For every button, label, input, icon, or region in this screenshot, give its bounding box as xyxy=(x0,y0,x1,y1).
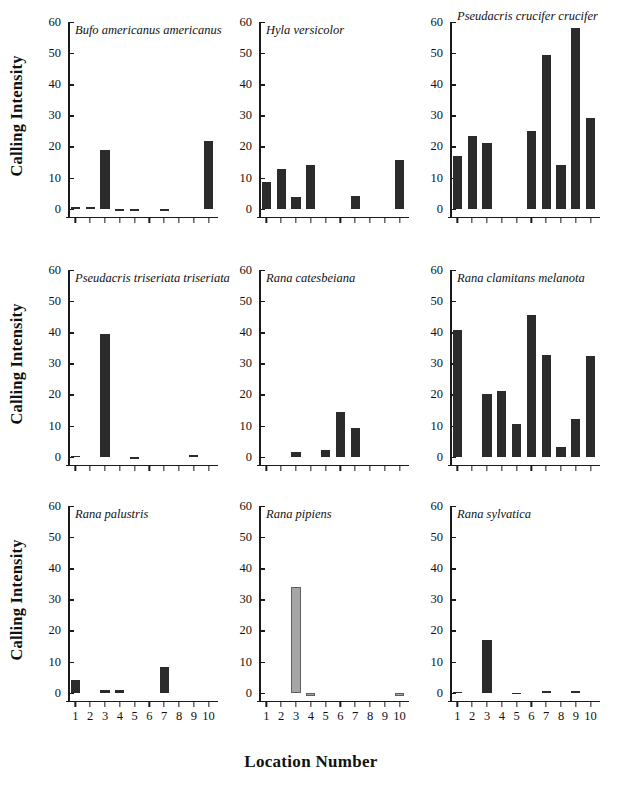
bar xyxy=(482,394,491,456)
y-axis-line xyxy=(450,506,452,702)
y-axis-tick xyxy=(70,506,75,507)
y-axis-tick-label: 20 xyxy=(49,387,62,402)
chart-panel: Pseudacris triseriata triseriata01020304… xyxy=(34,256,220,492)
x-axis-tick xyxy=(134,466,135,471)
y-axis-tick-label: 60 xyxy=(431,15,444,30)
y-axis-tick xyxy=(70,209,75,210)
y-axis-line xyxy=(259,22,261,218)
y-axis-tick xyxy=(261,270,266,271)
bar xyxy=(482,143,491,208)
y-axis-tick xyxy=(70,22,75,23)
y-axis-tick-label: 0 xyxy=(246,685,252,700)
x-axis-tick-label: 10 xyxy=(584,709,597,724)
x-axis-tick xyxy=(208,466,209,471)
x-axis-tick xyxy=(369,702,370,707)
x-axis-title: Location Number xyxy=(0,752,622,772)
chart-panel: Rana palustris010203040506012345678910 xyxy=(34,492,220,728)
x-axis-tick xyxy=(134,218,135,223)
y-axis-tick xyxy=(452,630,457,631)
bar xyxy=(130,457,139,459)
bar xyxy=(115,209,124,211)
x-axis-tick xyxy=(560,702,561,707)
y-axis-tick xyxy=(261,537,266,538)
x-axis-tick xyxy=(457,466,458,471)
y-axis-tick xyxy=(261,506,266,507)
y-axis-tick xyxy=(452,599,457,600)
y-axis-tick xyxy=(261,22,266,23)
y-axis-title: Calling Intensity xyxy=(2,492,32,708)
x-axis-tick-label: 6 xyxy=(146,709,152,724)
x-axis-tick xyxy=(399,702,400,707)
bar xyxy=(586,118,595,208)
bar xyxy=(204,141,213,209)
x-axis-tick-label: 10 xyxy=(393,709,406,724)
x-axis-tick xyxy=(384,466,385,471)
x-axis-tick xyxy=(310,218,311,223)
y-axis-tick-label: 60 xyxy=(240,499,253,514)
y-axis-tick-label: 40 xyxy=(49,77,62,92)
y-axis-tick-label: 40 xyxy=(431,561,444,576)
bar xyxy=(291,587,300,692)
bar xyxy=(542,355,551,457)
y-axis-tick-label: 40 xyxy=(431,325,444,340)
bar xyxy=(336,412,345,456)
x-axis-tick xyxy=(193,218,194,223)
x-axis-tick xyxy=(575,702,576,707)
x-axis-tick-label: 3 xyxy=(484,709,490,724)
x-axis-tick xyxy=(149,466,150,471)
y-axis-tick-label: 30 xyxy=(431,592,444,607)
x-axis-tick xyxy=(75,466,76,471)
x-axis-tick-label: 3 xyxy=(293,709,299,724)
y-axis-line xyxy=(259,506,261,702)
x-axis-tick xyxy=(104,466,105,471)
bar xyxy=(277,169,286,209)
x-axis-tick xyxy=(369,218,370,223)
x-axis-tick xyxy=(486,466,487,471)
x-axis-tick-label: 7 xyxy=(161,709,167,724)
plot-area: 0102030405060 xyxy=(450,22,598,218)
x-axis-tick-label: 5 xyxy=(513,709,519,724)
y-axis-tick-label: 30 xyxy=(49,356,62,371)
bar xyxy=(571,691,580,693)
x-axis-tick xyxy=(119,466,120,471)
y-axis-title-text: Calling Intensity xyxy=(7,539,27,660)
y-axis-tick xyxy=(452,84,457,85)
y-axis-tick-label: 60 xyxy=(431,499,444,514)
x-axis-tick xyxy=(178,702,179,707)
plot-area: 0102030405060 xyxy=(68,270,216,466)
y-axis-tick xyxy=(261,394,266,395)
y-axis-tick xyxy=(70,332,75,333)
y-axis-tick-label: 40 xyxy=(240,561,253,576)
y-axis-tick-label: 50 xyxy=(49,46,62,61)
plot-area: 010203040506012345678910 xyxy=(68,506,216,702)
bar xyxy=(512,693,521,694)
x-axis-tick-label: 9 xyxy=(573,709,579,724)
x-axis-tick-label: 6 xyxy=(528,709,534,724)
y-axis-tick xyxy=(452,568,457,569)
y-axis-tick-label: 30 xyxy=(49,592,62,607)
y-axis-title: Calling Intensity xyxy=(2,256,32,472)
plot-area: 0102030405060 xyxy=(259,270,407,466)
bar xyxy=(497,391,506,456)
x-axis-tick xyxy=(369,466,370,471)
y-axis-line xyxy=(450,270,452,466)
x-axis-tick xyxy=(119,218,120,223)
y-axis-tick xyxy=(261,209,266,210)
bar xyxy=(86,207,95,209)
panel-row: Calling IntensityBufo americanus america… xyxy=(0,8,622,244)
bar xyxy=(71,456,80,457)
x-axis-tick xyxy=(590,218,591,223)
y-axis-tick xyxy=(70,301,75,302)
y-axis-tick-label: 10 xyxy=(240,170,253,185)
x-axis-tick xyxy=(486,218,487,223)
y-axis-tick xyxy=(452,270,457,271)
y-axis-tick xyxy=(452,146,457,147)
x-axis-tick xyxy=(531,702,532,707)
y-axis-tick-label: 50 xyxy=(431,294,444,309)
x-axis-tick xyxy=(355,702,356,707)
y-axis-tick-label: 10 xyxy=(431,170,444,185)
y-axis-line xyxy=(68,270,70,466)
y-axis-tick xyxy=(261,630,266,631)
x-axis-tick-label: 2 xyxy=(469,709,475,724)
x-axis-tick xyxy=(266,466,267,471)
